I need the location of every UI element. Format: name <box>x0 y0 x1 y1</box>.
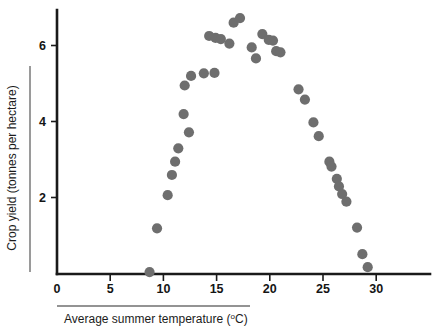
data-point <box>224 39 234 49</box>
data-point <box>341 197 351 207</box>
data-point <box>352 222 362 232</box>
y-tick-label: 2 <box>39 191 46 205</box>
data-point <box>180 80 190 90</box>
x-tick-label: 30 <box>369 282 383 296</box>
x-tick-label: 15 <box>210 282 224 296</box>
data-point <box>167 170 177 180</box>
x-tick-label: 25 <box>316 282 330 296</box>
y-tick-label: 4 <box>39 115 46 129</box>
data-point <box>144 267 154 277</box>
data-point <box>247 42 257 52</box>
x-axis-ticks: 0 5 10 15 20 25 30 <box>54 274 384 296</box>
data-point <box>186 71 196 81</box>
data-point <box>251 53 261 63</box>
data-point <box>235 13 245 23</box>
data-point <box>179 109 189 119</box>
y-tick-label: 6 <box>39 39 46 53</box>
x-axis-title-main: Average summer temperature ( <box>64 312 231 326</box>
data-point <box>268 35 278 45</box>
data-point <box>163 190 173 200</box>
data-point <box>293 84 303 94</box>
chart-figure: Crop yield (tonnes per hectare) 6 4 2 0 … <box>0 0 434 331</box>
data-point <box>314 131 324 141</box>
x-axis-title: Average summer temperature (oC) <box>64 312 248 326</box>
x-tick-label: 0 <box>54 282 61 296</box>
x-axis-title-unit: C) <box>235 312 248 326</box>
data-point <box>199 68 209 78</box>
y-axis-title: Crop yield (tonnes per hectare) <box>5 85 19 250</box>
data-point <box>363 262 373 272</box>
y-axis-ticks: 6 4 2 <box>39 39 57 205</box>
data-point <box>357 249 367 259</box>
data-points-layer <box>144 13 372 277</box>
data-point <box>300 94 310 104</box>
data-point <box>308 117 318 127</box>
data-point <box>326 162 336 172</box>
data-point <box>184 127 194 137</box>
x-tick-label: 10 <box>156 282 170 296</box>
data-point <box>275 47 285 57</box>
x-tick-label: 5 <box>107 282 114 296</box>
data-point <box>170 157 180 167</box>
data-point <box>173 143 183 153</box>
x-tick-label: 20 <box>263 282 277 296</box>
scatter-plot-svg: Crop yield (tonnes per hectare) 6 4 2 0 … <box>0 0 434 331</box>
data-point <box>152 223 162 233</box>
data-point <box>209 68 219 78</box>
